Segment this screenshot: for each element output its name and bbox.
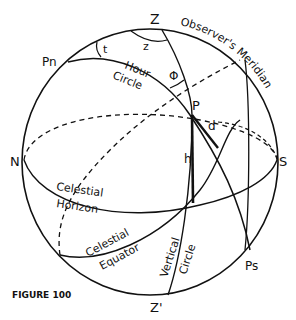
meridian-angle-label: t [103,43,108,56]
horizon-label-1: Celestial [56,180,105,199]
hour-circle [68,59,250,250]
parallactic-angle-label: Φ [169,69,178,83]
nadir-label: Z' [150,300,162,315]
figure-caption: FIGURE 100 [12,290,71,300]
zenith-label: Z [150,11,160,27]
altitude-segment [192,115,193,203]
south-pole-label: Ps [245,259,258,273]
horizon-label-2: Horizon [56,197,99,216]
north-pole-label: Pn [42,55,57,69]
secondary-arc [245,60,249,250]
declination-dashed-arc [218,122,277,158]
declination-label: d [208,119,216,133]
azimuth-angle-label: z [143,40,149,53]
azimuth-angle-arc [131,31,167,41]
meridian-angle-arc [97,42,102,57]
south-label: S [279,154,287,169]
celestial-equator-back [59,60,240,255]
observers-meridian-label: Observer's Meridian [179,15,275,90]
altitude-label: h [184,152,192,166]
body-label: P [192,98,200,113]
north-label: N [10,154,20,169]
celestial-sphere-diagram: Z Z' Pn Ps N S P t z Φ h d Observer's Me… [0,0,296,320]
